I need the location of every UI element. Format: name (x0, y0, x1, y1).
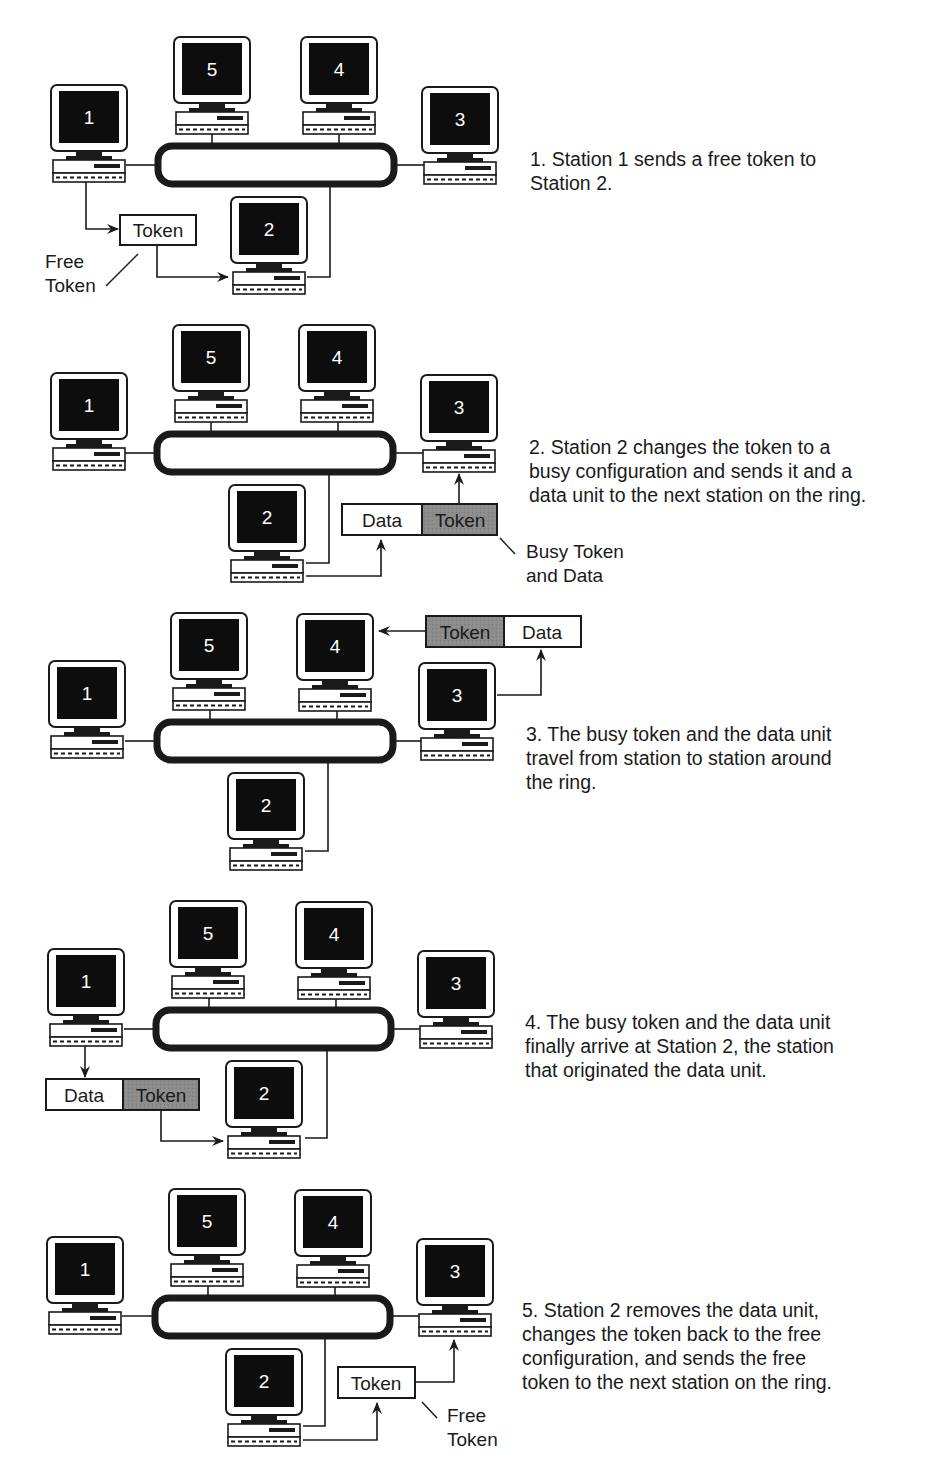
svg-text:Token: Token (435, 510, 486, 531)
svg-text:3: 3 (452, 685, 463, 706)
station-5: 5 (170, 901, 246, 998)
station-3: 3 (417, 1239, 493, 1336)
svg-text:2: 2 (262, 507, 273, 528)
station-3: 3 (419, 663, 495, 760)
station-1: 1 (51, 85, 127, 182)
svg-text:5: 5 (206, 347, 217, 368)
svg-text:4: 4 (329, 924, 340, 945)
svg-text:Token: Token (133, 220, 184, 241)
station-4: 4 (299, 325, 375, 422)
free-token-box: Token (120, 215, 196, 245)
station-1: 1 (51, 373, 127, 470)
step-3-diagram: 1 5 4 3 2 Token Data (49, 613, 581, 870)
step-4-caption: 4. The busy token and the data unit fina… (525, 1010, 834, 1082)
station-1: 1 (48, 949, 124, 1046)
svg-text:1: 1 (82, 683, 93, 704)
svg-text:Token: Token (136, 1085, 187, 1106)
step-5-diagram: 1 5 4 3 2 Token (47, 1189, 493, 1446)
step-1-caption: 1. Station 1 sends a free token to Stati… (530, 147, 816, 195)
svg-text:Data: Data (522, 622, 563, 643)
step-3-caption: 3. The busy token and the data unit trav… (526, 722, 832, 794)
station-1: 1 (49, 661, 125, 758)
station-5: 5 (173, 325, 249, 422)
station-4: 4 (301, 37, 377, 134)
station-5: 5 (169, 1189, 245, 1286)
data-box: Data (342, 504, 422, 535)
svg-text:4: 4 (330, 636, 341, 657)
station-2: 2 (226, 1061, 302, 1158)
svg-text:Token: Token (440, 622, 491, 643)
svg-text:2: 2 (259, 1371, 270, 1392)
svg-text:3: 3 (454, 397, 465, 418)
svg-text:3: 3 (450, 1261, 461, 1282)
svg-text:5: 5 (202, 1211, 213, 1232)
station-5: 5 (171, 613, 247, 710)
svg-text:5: 5 (203, 923, 214, 944)
station-1: 1 (47, 1237, 123, 1334)
svg-text:5: 5 (204, 635, 215, 656)
station-4: 4 (295, 1190, 371, 1287)
station-4: 4 (296, 902, 372, 999)
svg-text:4: 4 (332, 347, 343, 368)
data-box: Data (46, 1079, 123, 1110)
svg-text:Data: Data (362, 510, 403, 531)
svg-text:1: 1 (80, 1259, 91, 1280)
svg-text:4: 4 (334, 59, 345, 80)
station-3: 3 (418, 951, 494, 1048)
station-2: 2 (231, 197, 307, 294)
step-5-caption: 5. Station 2 removes the data unit, chan… (522, 1298, 832, 1394)
svg-text:Data: Data (64, 1085, 105, 1106)
busy-token-box: Token (422, 504, 497, 535)
busy-token-box: Token (426, 616, 504, 647)
svg-text:3: 3 (455, 109, 466, 130)
svg-text:3: 3 (451, 973, 462, 994)
step-2-diagram: 1 5 4 3 2 Data Token (51, 325, 515, 582)
svg-text:1: 1 (84, 395, 95, 416)
free-token-annotation: Free Token (45, 250, 96, 298)
free-token-annotation: Free Token (447, 1404, 498, 1452)
station-2: 2 (229, 485, 305, 582)
station-3: 3 (421, 375, 497, 472)
svg-text:2: 2 (261, 795, 272, 816)
step-2-caption: 2. Station 2 changes the token to a busy… (529, 435, 866, 507)
station-4: 4 (297, 614, 373, 711)
svg-text:1: 1 (84, 107, 95, 128)
step-4-diagram: 1 5 4 3 2 Data Token (46, 901, 494, 1158)
station-5: 5 (174, 37, 250, 134)
free-token-box: Token (338, 1367, 415, 1398)
busy-token-box: Token (123, 1079, 199, 1110)
station-2: 2 (228, 773, 304, 870)
step-1-diagram: 1 5 4 3 2 Token (51, 37, 498, 294)
data-box: Data (504, 616, 581, 647)
station-3: 3 (422, 87, 498, 184)
busy-token-and-data-annotation: Busy Token and Data (526, 540, 624, 588)
svg-text:Token: Token (351, 1373, 402, 1394)
svg-text:2: 2 (264, 219, 275, 240)
svg-text:1: 1 (81, 971, 92, 992)
svg-text:5: 5 (207, 59, 218, 80)
station-2: 2 (226, 1349, 302, 1446)
svg-text:2: 2 (259, 1083, 270, 1104)
svg-text:4: 4 (328, 1212, 339, 1233)
ring (158, 146, 394, 184)
